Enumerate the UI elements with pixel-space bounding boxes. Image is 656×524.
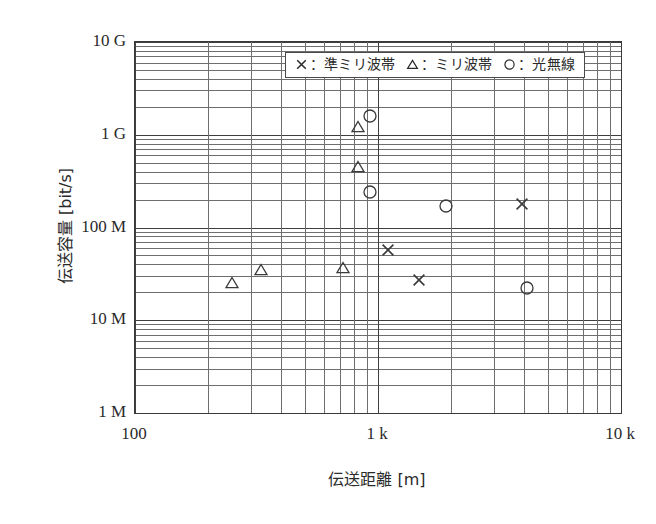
grid-line-horizontal [135,183,621,184]
data-point-marker [519,280,535,296]
data-point-marker [362,108,378,124]
data-point-marker [438,198,454,214]
grid-line-vertical [135,42,136,413]
grid-line-horizontal [135,320,621,321]
data-point-marker [350,159,366,175]
grid-line-horizontal [135,172,621,173]
grid-line-horizontal [135,46,621,47]
grid-line-horizontal [135,42,621,43]
grid-line-vertical [378,42,379,413]
grid-line-horizontal [135,341,621,342]
grid-line-vertical [524,42,525,413]
grid-line-horizontal [135,236,621,237]
y-axis-tick-label: 100 M [0,217,126,237]
grid-line-horizontal [135,324,621,325]
grid-line-horizontal [135,348,621,349]
grid-line-horizontal [135,232,621,233]
plot-area [134,41,622,414]
data-point-marker [411,272,427,288]
x-axis-tick-label: 1 k [366,424,387,444]
grid-line-vertical [567,42,568,413]
y-axis-tick-label: 10 M [0,309,126,329]
grid-line-horizontal [135,42,621,43]
grid-line-vertical [251,42,252,413]
y-axis-tick-label: 1 M [0,402,126,422]
grid-line-horizontal [135,320,621,321]
grid-line-vertical [597,42,598,413]
y-axis-tick-label: 10 G [0,31,126,51]
x-axis-tick-label: 100 [121,424,147,444]
grid-line-horizontal [135,144,621,145]
grid-line-vertical [324,42,325,413]
grid-line-horizontal [135,357,621,358]
grid-line-horizontal [135,139,621,140]
scatter-chart-figure: 伝送容量 [bit/s] 10 G1 G100 M10 M1 M 1001 k1… [0,0,656,524]
circle-icon [503,58,516,71]
legend-label-optical-wireless: ：光無線 [518,57,575,72]
grid-line-vertical [378,42,379,413]
cross-icon [295,58,308,71]
grid-line-horizontal [135,149,621,150]
grid-lines [135,42,621,413]
grid-line-horizontal [135,335,621,336]
grid-line-horizontal [135,90,621,91]
grid-line-horizontal [135,107,621,108]
data-point-marker [380,242,396,258]
grid-line-horizontal [135,200,621,201]
grid-line-vertical [340,42,341,413]
legend-entry-millimeter: ：ミリ波帯 [406,57,492,72]
grid-line-vertical [610,42,611,413]
data-markers [135,42,621,413]
grid-line-horizontal [135,292,621,293]
grid-line-vertical [208,42,209,413]
grid-line-horizontal [135,135,621,136]
legend-entry-quasi-millimeter: ：準ミリ波帯 [295,57,395,72]
grid-line-horizontal [135,248,621,249]
grid-line-horizontal [135,329,621,330]
grid-line-horizontal [135,385,621,386]
data-point-marker [224,275,240,291]
data-point-marker [335,260,351,276]
grid-line-vertical [354,42,355,413]
data-point-marker [253,262,269,278]
grid-line-horizontal [135,79,621,80]
grid-line-horizontal [135,276,621,277]
grid-line-vertical [367,42,368,413]
grid-line-horizontal [135,155,621,156]
y-axis-tick-label: 1 G [0,124,126,144]
legend-label-millimeter: ：ミリ波帯 [421,57,492,72]
grid-line-horizontal [135,228,621,229]
grid-line-horizontal [135,163,621,164]
grid-line-horizontal [135,135,621,136]
grid-line-horizontal [135,228,621,229]
grid-line-horizontal [135,264,621,265]
legend-entry-optical-wireless: ：光無線 [503,57,575,72]
grid-line-vertical [548,42,549,413]
grid-line-vertical [583,42,584,413]
grid-line-horizontal [135,255,621,256]
x-axis-title: 伝送距離 [m] [328,466,425,490]
grid-line-vertical [451,42,452,413]
data-point-marker [514,196,530,212]
grid-line-horizontal [135,242,621,243]
data-point-marker [362,184,378,200]
grid-line-vertical [281,42,282,413]
grid-line-vertical [305,42,306,413]
legend-label-quasi-millimeter: ：準ミリ波帯 [310,57,395,72]
chart-legend: ：準ミリ波帯 ：ミリ波帯 ：光無線 [285,52,585,78]
data-point-marker [350,119,366,135]
grid-line-horizontal [135,369,621,370]
grid-line-vertical [494,42,495,413]
x-axis-tick-label: 10 k [605,424,635,444]
triangle-icon [406,58,419,71]
